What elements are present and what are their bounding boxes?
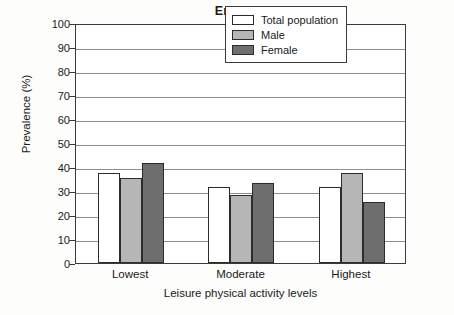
chart-figure: England Prevalence (%) 10090807060504030… <box>0 0 454 315</box>
bar <box>363 202 385 263</box>
legend-label: Female <box>261 44 298 56</box>
legend-label: Male <box>261 29 285 41</box>
y-axis-tick-label: 30 <box>30 186 70 198</box>
y-axis-tick-label: 60 <box>30 114 70 126</box>
chart-legend: Total populationMaleFemale <box>225 6 347 63</box>
bar <box>252 183 274 263</box>
legend-item: Total population <box>232 12 338 27</box>
bar <box>142 163 164 263</box>
legend-item: Male <box>232 27 338 42</box>
bar <box>341 173 363 263</box>
x-axis-label: Leisure physical activity levels <box>75 287 406 299</box>
y-axis-tick-label: 90 <box>30 42 70 54</box>
x-axis-tick-label: Lowest <box>75 268 185 280</box>
bar <box>98 173 120 263</box>
x-axis-tick-label: Moderate <box>186 268 296 280</box>
bar <box>120 178 142 263</box>
y-axis-tick-label: 50 <box>30 138 70 150</box>
bar <box>319 187 341 263</box>
y-axis-tick-label: 100 <box>30 18 70 30</box>
legend-label: Total population <box>261 14 338 26</box>
bar-group <box>76 25 186 263</box>
bar <box>208 187 230 263</box>
legend-swatch-icon <box>232 30 254 40</box>
legend-swatch-icon <box>232 45 254 55</box>
legend-item: Female <box>232 42 338 57</box>
y-axis-tick-label: 10 <box>30 234 70 246</box>
bar <box>230 195 252 263</box>
y-axis-tick-label: 40 <box>30 162 70 174</box>
y-axis-tick-label: 20 <box>30 210 70 222</box>
y-axis-tick-label: 80 <box>30 66 70 78</box>
y-axis-tick-label: 70 <box>30 90 70 102</box>
y-axis-tick-mark <box>69 264 75 265</box>
y-axis-tick-label: 0 <box>30 258 70 270</box>
legend-swatch-icon <box>232 15 254 25</box>
x-axis-tick-label: Highest <box>296 268 406 280</box>
